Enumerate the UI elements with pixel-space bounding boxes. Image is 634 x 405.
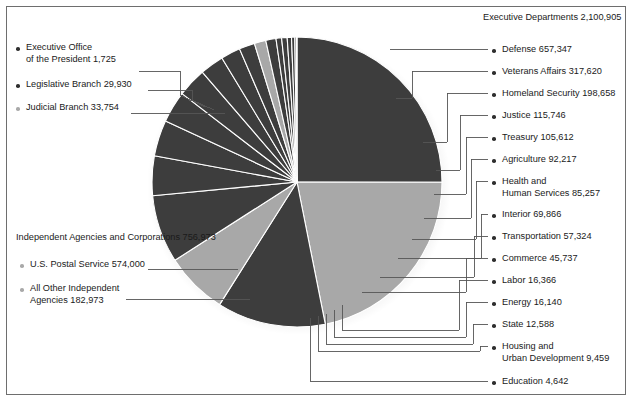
label-line-1: Judicial Branch 33,754 bbox=[26, 102, 119, 114]
label-labor[interactable]: Labor 16,366 bbox=[502, 275, 556, 287]
label-line-1: U.S. Postal Service 574,000 bbox=[30, 259, 145, 271]
pie-slice-defense[interactable] bbox=[297, 37, 442, 182]
label-homeland-security[interactable]: Homeland Security 198,658 bbox=[502, 88, 615, 100]
bullet-health-and-human-services bbox=[492, 181, 496, 185]
label-line-2: Agencies 182,973 bbox=[30, 295, 119, 307]
bullet-treasury bbox=[492, 137, 496, 141]
bullet-judicial-branch bbox=[16, 107, 20, 111]
label-line-1: Labor 16,366 bbox=[502, 275, 556, 287]
bullet-energy bbox=[492, 302, 496, 306]
label-line-1: Defense 657,347 bbox=[502, 44, 572, 56]
label-line-1: State 12,588 bbox=[502, 319, 554, 331]
bullet-agriculture bbox=[492, 159, 496, 163]
label-line-1: Interior 69,866 bbox=[502, 209, 561, 221]
bullet-us-postal-service bbox=[20, 264, 24, 268]
pie-slice-executive-office-of-the-president[interactable] bbox=[296, 37, 297, 182]
label-line-1: Treasury 105,612 bbox=[502, 132, 574, 144]
bullet-labor bbox=[492, 280, 496, 284]
label-housing-and-urban-development[interactable]: Housing andUrban Development 9,459 bbox=[502, 341, 609, 364]
bullet-defense bbox=[492, 49, 496, 53]
label-line-1: Veterans Affairs 317,620 bbox=[502, 66, 602, 78]
bullet-housing-and-urban-development bbox=[492, 346, 496, 350]
bullet-justice bbox=[492, 115, 496, 119]
label-line-1: Transportation 57,324 bbox=[502, 231, 592, 243]
label-all-other-independent-agencies[interactable]: All Other Independent Agencies 182,973 bbox=[30, 283, 119, 306]
label-justice[interactable]: Justice 115,746 bbox=[502, 110, 566, 122]
group-title-executive-departments: Executive Departments 2,100,905 bbox=[483, 12, 621, 24]
bullet-homeland-security bbox=[492, 93, 496, 97]
label-line-2: of the President 1,725 bbox=[26, 54, 116, 66]
label-line-1: Commerce 45,737 bbox=[502, 253, 578, 265]
bullet-transportation bbox=[492, 236, 496, 240]
group-title-line-2: and Corporations 756,973 bbox=[110, 232, 216, 242]
group-title-line-1: Executive Departments bbox=[483, 12, 578, 22]
figure-canvas: . . . bbox=[0, 0, 634, 405]
label-interior[interactable]: Interior 69,866 bbox=[502, 209, 561, 221]
bullet-interior bbox=[492, 214, 496, 218]
bullet-commerce bbox=[492, 258, 496, 262]
label-transportation[interactable]: Transportation 57,324 bbox=[502, 231, 592, 243]
bullet-state bbox=[492, 324, 496, 328]
label-line-1: Health and bbox=[502, 176, 600, 188]
label-veterans-affairs[interactable]: Veterans Affairs 317,620 bbox=[502, 66, 602, 78]
label-line-1: Energy 16,140 bbox=[502, 297, 562, 309]
label-line-1: Legislative Branch 29,930 bbox=[26, 79, 132, 91]
label-state[interactable]: State 12,588 bbox=[502, 319, 554, 331]
label-line-1: Homeland Security 198,658 bbox=[502, 88, 615, 100]
label-line-2: Human Services 85,257 bbox=[502, 188, 600, 200]
bullet-veterans-affairs bbox=[492, 71, 496, 75]
group-title-independent-agencies: Independent Agencies and Corporations 75… bbox=[16, 232, 216, 244]
label-legislative-branch[interactable]: Legislative Branch 29,930 bbox=[26, 79, 132, 91]
label-commerce[interactable]: Commerce 45,737 bbox=[502, 253, 578, 265]
label-education[interactable]: Education 4,642 bbox=[502, 376, 568, 388]
label-line-2: Urban Development 9,459 bbox=[502, 353, 609, 365]
label-treasury[interactable]: Treasury 105,612 bbox=[502, 132, 574, 144]
label-agriculture[interactable]: Agriculture 92,217 bbox=[502, 154, 577, 166]
label-defense[interactable]: Defense 657,347 bbox=[502, 44, 572, 56]
label-energy[interactable]: Energy 16,140 bbox=[502, 297, 562, 309]
bullet-executive-office-of-the-president bbox=[16, 47, 20, 51]
bullet-education bbox=[492, 381, 496, 385]
label-line-1: Education 4,642 bbox=[502, 376, 568, 388]
label-executive-office-of-the-president[interactable]: Executive Office of the President 1,725 bbox=[26, 42, 116, 65]
label-line-1: Housing and bbox=[502, 341, 609, 353]
label-line-1: All Other Independent bbox=[30, 283, 119, 295]
pie-slices bbox=[152, 37, 442, 327]
group-title-total: 2,100,905 bbox=[581, 12, 622, 22]
label-line-1: Justice 115,746 bbox=[502, 110, 566, 122]
label-health-and-human-services[interactable]: Health andHuman Services 85,257 bbox=[502, 176, 600, 199]
label-us-postal-service[interactable]: U.S. Postal Service 574,000 bbox=[30, 259, 145, 271]
label-judicial-branch[interactable]: Judicial Branch 33,754 bbox=[26, 102, 119, 114]
group-title-line-1: Independent Agencies bbox=[16, 232, 107, 242]
label-line-1: Agriculture 92,217 bbox=[502, 154, 577, 166]
bullet-legislative-branch bbox=[16, 84, 20, 88]
label-line-1: Executive Office bbox=[26, 42, 116, 54]
bullet-all-other-independent-agencies bbox=[20, 288, 24, 292]
